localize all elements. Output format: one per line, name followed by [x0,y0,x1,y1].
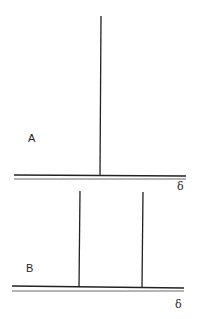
peak-a [100,16,101,175]
peak-b-1 [79,191,80,287]
panel-a-spectrum [14,16,186,179]
panel-a-label: A [28,132,35,144]
peak-b-2 [142,192,143,287]
panel-b-label: B [26,262,33,274]
panel-a-axis-label: δ [177,180,184,193]
panel-b-axis-label: δ [175,298,182,311]
panel-b-spectrum [12,191,184,291]
